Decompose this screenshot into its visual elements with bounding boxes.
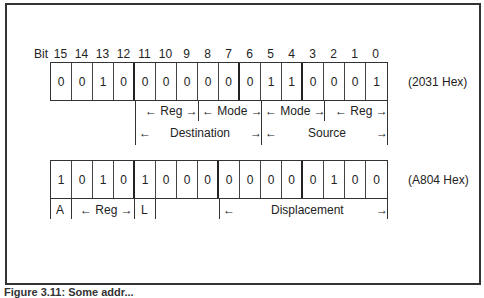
divider — [198, 101, 199, 121]
bit-number: 8 — [197, 47, 218, 61]
bit-cell: 0 — [240, 161, 261, 198]
bit-cell: 1 — [93, 63, 114, 100]
bit-number: 12 — [113, 47, 134, 61]
divider — [135, 101, 136, 145]
figure-caption: Figure 3.11: Some addr... — [4, 286, 134, 298]
bit-cell: 0 — [219, 161, 240, 198]
bit-cell: 0 — [156, 63, 177, 100]
bit-number: 3 — [302, 47, 323, 61]
bit-cell: 0 — [177, 161, 198, 198]
bit-cell: 0 — [198, 161, 219, 198]
bit-cell: 0 — [114, 63, 135, 100]
bit-cell: 0 — [282, 161, 303, 198]
bit-cell: 1 — [366, 63, 387, 100]
bit-cell: 0 — [219, 63, 240, 100]
field-dest-reg: ← Reg → — [145, 104, 198, 118]
bit-number: 5 — [260, 47, 281, 61]
field-destination: Destination — [170, 126, 230, 140]
bit-cell: 1 — [51, 161, 72, 198]
bit-number: 6 — [239, 47, 260, 61]
bit-cell: 0 — [51, 63, 72, 100]
bit-cell: 0 — [345, 161, 366, 198]
instruction-2-bits: 1010100000000100 — [50, 160, 388, 199]
figure-frame — [5, 3, 481, 285]
bit-cell: 1 — [93, 161, 114, 198]
bit-cell: 0 — [72, 161, 93, 198]
divider — [134, 199, 135, 219]
bit-number: 4 — [281, 47, 302, 61]
bit-cell: 1 — [261, 63, 282, 100]
bit-cell: 1 — [135, 161, 156, 198]
bit-cell: 0 — [303, 161, 324, 198]
divider — [71, 199, 72, 219]
bit-cell: 0 — [324, 63, 345, 100]
bit-cell: 0 — [261, 161, 282, 198]
bit-number: 13 — [92, 47, 113, 61]
bit-cell: 0 — [177, 63, 198, 100]
instruction-1-hex: (2031 Hex) — [408, 75, 467, 89]
dest-right-arrow: → — [250, 126, 262, 140]
bit-number: 7 — [218, 47, 239, 61]
field-displacement: Displacement — [271, 203, 344, 217]
bit-cell: 0 — [114, 161, 135, 198]
bit-cell: 0 — [198, 63, 219, 100]
field-l: L — [141, 203, 148, 217]
bit-label: Bit — [34, 47, 48, 61]
instruction-1-bits: 0010000000110001 — [50, 62, 388, 101]
field-source: Source — [308, 126, 346, 140]
bit-number: 11 — [134, 47, 155, 61]
disp-right-arrow: → — [376, 203, 388, 217]
disp-left-arrow: ← — [223, 203, 235, 217]
bit-cell: 1 — [324, 161, 345, 198]
src-right-arrow: → — [376, 126, 388, 140]
bit-cell: 0 — [345, 63, 366, 100]
bit-cell: 1 — [282, 63, 303, 100]
bit-number: 14 — [71, 47, 92, 61]
divider — [155, 199, 156, 219]
divider — [219, 199, 220, 219]
bit-number: 0 — [365, 47, 386, 61]
field-dest-mode: ← Mode → — [202, 104, 263, 118]
bit-cell: 0 — [156, 161, 177, 198]
bit-number: 10 — [155, 47, 176, 61]
field-src-reg: ← Reg → — [335, 104, 388, 118]
field-a: A — [56, 203, 64, 217]
field-src-mode: ← Mode → — [265, 104, 326, 118]
bit-number: 15 — [50, 47, 71, 61]
instruction-2-hex: (A804 Hex) — [408, 173, 469, 187]
bit-number: 9 — [176, 47, 197, 61]
bit-number: 2 — [323, 47, 344, 61]
bit-cell: 0 — [303, 63, 324, 100]
bit-cell: 0 — [240, 63, 261, 100]
field-reg: ← Reg → — [80, 203, 133, 217]
bit-cell: 0 — [135, 63, 156, 100]
dest-left-arrow: ← — [139, 126, 151, 140]
divider — [50, 199, 51, 219]
bit-number: 1 — [344, 47, 365, 61]
src-left-arrow: ← — [265, 126, 277, 140]
bit-cell: 0 — [366, 161, 387, 198]
bit-cell: 0 — [72, 63, 93, 100]
